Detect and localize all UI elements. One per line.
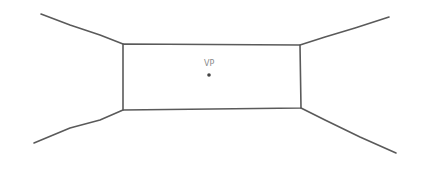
bottom-right-receding-line	[301, 108, 396, 153]
top-left-receding-line	[41, 14, 123, 44]
back-wall-rectangle	[123, 44, 301, 110]
top-right-receding-line	[300, 17, 389, 45]
vanishing-point-dot	[207, 73, 211, 77]
vanishing-point-label: VP	[204, 59, 214, 68]
bottom-left-receding-line	[34, 110, 123, 143]
perspective-diagram: VP	[0, 0, 422, 178]
